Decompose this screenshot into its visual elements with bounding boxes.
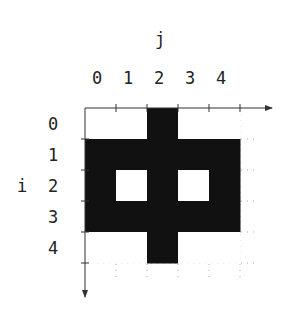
binary-image-grid-diagram: j i 01234 01234 xyxy=(0,0,290,322)
pixel-cell xyxy=(116,170,148,202)
column-label: 0 xyxy=(92,68,102,88)
pixel-cell xyxy=(147,108,179,140)
pixel-cell xyxy=(85,232,117,264)
pixel-cell xyxy=(116,232,148,264)
pixel-cell xyxy=(178,201,210,233)
row-label: 0 xyxy=(48,114,58,134)
pixel-cell xyxy=(209,170,241,202)
pixel-cell xyxy=(85,139,117,171)
pixel-cell xyxy=(178,232,210,264)
pixel-cell xyxy=(147,201,179,233)
pixel-cell xyxy=(85,170,117,202)
pixel-cell xyxy=(209,232,241,264)
i-axis-label: i xyxy=(17,176,27,196)
pixel-cell xyxy=(209,201,241,233)
pixel-cell xyxy=(85,201,117,233)
pixel-cell xyxy=(116,108,148,140)
row-labels: 01234 xyxy=(48,114,58,258)
pixel-cell xyxy=(178,108,210,140)
column-label: 2 xyxy=(154,68,164,88)
row-label: 4 xyxy=(48,238,58,258)
column-label: 4 xyxy=(216,68,226,88)
pixel-cell xyxy=(116,139,148,171)
row-label: 3 xyxy=(48,207,58,227)
pixel-cell xyxy=(85,108,117,140)
pixel-cells xyxy=(85,108,241,264)
pixel-cell xyxy=(147,170,179,202)
pixel-cell xyxy=(178,139,210,171)
row-label: 2 xyxy=(48,176,58,196)
column-labels: 01234 xyxy=(92,68,226,88)
j-axis-label: j xyxy=(155,29,165,49)
pixel-cell xyxy=(147,232,179,264)
column-label: 3 xyxy=(185,68,195,88)
pixel-cell xyxy=(116,201,148,233)
pixel-cell xyxy=(209,108,241,140)
row-label: 1 xyxy=(48,145,58,165)
pixel-cell xyxy=(147,139,179,171)
pixel-cell xyxy=(209,139,241,171)
column-label: 1 xyxy=(123,68,133,88)
pixel-cell xyxy=(178,170,210,202)
